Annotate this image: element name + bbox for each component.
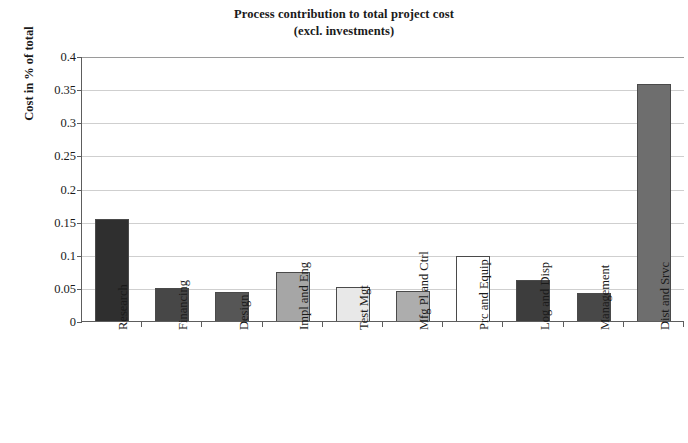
x-axis-category-label: Log and Disp [539, 262, 552, 330]
bar-slot [383, 57, 443, 322]
y-axis-tick-label: 0.35 [14, 84, 76, 96]
chart-title-line-2: (excl. investments) [0, 23, 688, 40]
x-axis-category-label: Test Mgt [358, 285, 371, 330]
bar-slot [503, 57, 563, 322]
bar-slot [323, 57, 383, 322]
y-axis-tick-label: 0.05 [14, 283, 76, 295]
bar-slot [624, 57, 684, 322]
x-axis-category-label: Mfg Pl and Ctrl [418, 251, 431, 330]
y-axis-tick-label: 0.1 [14, 250, 76, 262]
y-axis-tick-label: 0.3 [14, 117, 76, 129]
bar-slot [443, 57, 503, 322]
x-axis-category-labels: ResearchFinancingDesignImpl and EngTest … [82, 322, 684, 443]
bar-slot [142, 57, 202, 322]
chart-title: Process contribution to total project co… [0, 6, 688, 40]
chart-title-line-1: Process contribution to total project co… [0, 6, 688, 23]
y-axis-tick-label: 0.25 [14, 150, 76, 162]
x-axis-category-label: Impl and Eng [298, 262, 311, 330]
x-axis-category-label: Management [599, 265, 612, 330]
bar-series [82, 57, 684, 322]
bar-slot [82, 57, 142, 322]
x-axis-category-label: Research [117, 284, 130, 330]
y-axis-tick-label: 0.15 [14, 217, 76, 229]
bar-slot [564, 57, 624, 322]
y-axis-tick-label: 0 [14, 316, 76, 328]
x-axis-category-label: Dist and Srvc [659, 262, 672, 330]
bar-slot [263, 57, 323, 322]
y-axis-tick-label: 0.2 [14, 184, 76, 196]
plot-area [82, 57, 684, 322]
y-axis-tick-label: 0.4 [14, 51, 76, 63]
x-axis-category-label: Prc and Equip [478, 259, 491, 330]
x-axis-category-label: Design [238, 295, 251, 330]
x-axis-category-label: Financing [177, 280, 190, 330]
bar-slot [202, 57, 262, 322]
